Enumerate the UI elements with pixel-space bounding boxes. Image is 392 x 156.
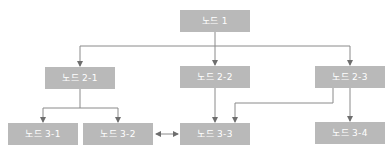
node-label: 노드 3-1 <box>25 129 60 139</box>
node-label: 노드 3-4 <box>332 128 367 138</box>
node-label: 노드 3-2 <box>100 129 135 139</box>
node-3-2: 노드 3-2 <box>83 123 153 145</box>
node-2-3: 노드 2-3 <box>315 66 385 88</box>
node-2-2: 노드 2-2 <box>180 66 250 88</box>
node-label: 노드 2-3 <box>332 72 367 82</box>
node-label: 노드 2-1 <box>62 73 97 83</box>
node-2-1: 노드 2-1 <box>45 67 115 89</box>
node-3-4: 노드 3-4 <box>315 122 385 144</box>
node-label: 노드 3-3 <box>197 129 232 139</box>
node-3-3: 노드 3-3 <box>180 123 250 145</box>
node-3-1: 노드 3-1 <box>8 123 78 145</box>
node-1: 노드 1 <box>180 10 250 32</box>
node-label: 노드 2-2 <box>197 72 232 82</box>
edge-n23-n33 <box>235 88 333 122</box>
node-label: 노드 1 <box>202 16 228 26</box>
